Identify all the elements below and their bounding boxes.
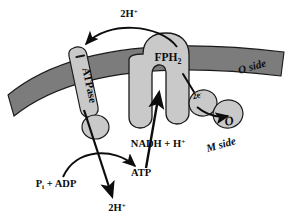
- pi-adp-rest: + ADP: [44, 178, 77, 189]
- m-side-label: M side: [204, 134, 237, 154]
- nadh-text: NADH + H: [131, 138, 181, 149]
- atp-label: ATP: [131, 167, 152, 178]
- proton-bottom-charge: +: [122, 202, 126, 210]
- nadh-charge: +: [181, 138, 185, 146]
- diagram-canvas: ATPase FPH2 2e- O 2H+: [0, 0, 291, 221]
- fph2-label-text: FPH: [155, 51, 178, 63]
- proton-bottom-label: 2H+: [108, 202, 125, 213]
- electron-carrier-group: 2e- O: [186, 87, 246, 132]
- pi-adp-label: Pi + ADP: [36, 178, 77, 191]
- membrane-chemiosmosis-diagram: ATPase FPH2 2e- O 2H+: [0, 0, 291, 221]
- fph2-body: [129, 33, 189, 128]
- atpase-pore-mark: [77, 56, 85, 58]
- nadh-label: NADH + H+: [131, 138, 185, 149]
- proton-top-label: 2H+: [120, 8, 137, 19]
- proton-bottom-text: 2H: [108, 202, 121, 213]
- proton-top-text: 2H: [120, 8, 133, 19]
- fph2-complex: FPH2: [129, 33, 194, 128]
- fph2-label-subscript: 2: [178, 57, 182, 66]
- proton-top-charge: +: [134, 8, 138, 16]
